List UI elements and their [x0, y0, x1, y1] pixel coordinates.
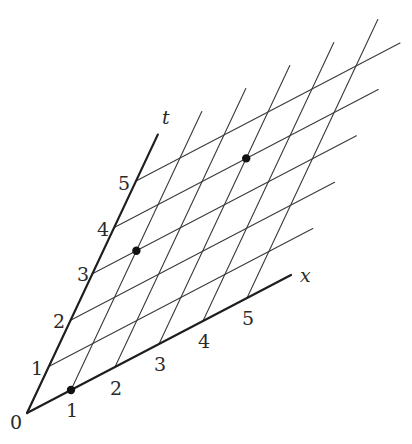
- x-tick-label-2: 2: [110, 377, 122, 399]
- event-dot-x3-t4: [242, 154, 250, 162]
- spacetime-diagram: x t 0 1234512345: [0, 0, 412, 444]
- t-axis: [27, 135, 158, 413]
- t-tick-label-5: 5: [118, 172, 130, 194]
- x-tick-label-1: 1: [66, 399, 78, 421]
- x-tick-label-4: 4: [198, 330, 210, 352]
- event-dot-x1-t0: [67, 386, 75, 394]
- grid-line-t-3: [92, 136, 356, 274]
- grid-line-t-1: [49, 229, 313, 367]
- x-axis-label: x: [300, 264, 311, 286]
- t-tick-label-2: 2: [53, 310, 65, 332]
- t-tick-label-1: 1: [31, 357, 43, 379]
- grid-line-t-5: [136, 43, 400, 181]
- x-tick-label-3: 3: [154, 353, 166, 375]
- x-tick-label-5: 5: [242, 307, 254, 329]
- x-axis: [27, 275, 291, 413]
- t-tick-label-3: 3: [77, 263, 89, 285]
- grid-lines: [49, 20, 400, 390]
- grid-line-t-2: [71, 182, 335, 320]
- origin-label: 0: [10, 411, 22, 433]
- t-axis-label: t: [162, 106, 170, 128]
- t-tick-label-4: 4: [97, 218, 109, 240]
- event-dot-x1-t3: [132, 247, 140, 255]
